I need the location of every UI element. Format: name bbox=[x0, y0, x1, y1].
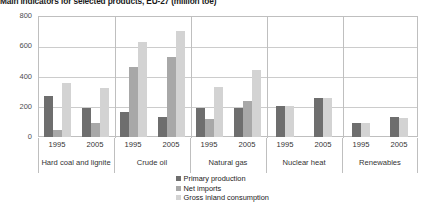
y-axis-tick-label: 600 bbox=[0, 41, 32, 50]
category-separator bbox=[115, 17, 116, 138]
year-label: 1995 bbox=[37, 140, 77, 149]
legend-label: Gross inland consumption bbox=[184, 193, 269, 202]
y-axis-tick-label: 400 bbox=[0, 72, 32, 81]
year-row-separator bbox=[38, 138, 39, 155]
category-row-separator bbox=[114, 155, 115, 173]
year-label: 1995 bbox=[113, 140, 153, 149]
y-axis-tick-label: 800 bbox=[0, 11, 32, 20]
year-label: 2005 bbox=[75, 140, 115, 149]
gridline bbox=[39, 47, 417, 48]
legend-item[interactable]: Net imports bbox=[176, 184, 269, 193]
year-label: 1995 bbox=[265, 140, 305, 149]
category-label: Renewables bbox=[330, 158, 430, 167]
gridline bbox=[39, 107, 417, 108]
year-label: 2005 bbox=[227, 140, 267, 149]
chart-container: Main indicators for selected products, E… bbox=[0, 0, 430, 205]
category-row-separator bbox=[417, 155, 418, 173]
year-row-separator bbox=[342, 138, 343, 155]
year-row-separator bbox=[190, 138, 191, 155]
legend-item[interactable]: Primary production bbox=[176, 174, 269, 183]
chart-title: Main indicators for selected products, E… bbox=[0, 0, 430, 6]
legend-label: Primary production bbox=[184, 174, 246, 183]
category-row-separator bbox=[190, 155, 191, 173]
category-separator bbox=[267, 17, 268, 138]
legend-swatch-icon bbox=[176, 186, 181, 191]
year-axis: 1995200519952005199520051995200519952005 bbox=[38, 138, 418, 155]
chart-legend: Primary productionNet importsGross inlan… bbox=[176, 174, 269, 203]
year-row-separator bbox=[417, 138, 418, 155]
category-separator bbox=[191, 17, 192, 138]
gridline bbox=[39, 77, 417, 78]
legend-swatch-icon bbox=[176, 195, 181, 200]
category-row-separator bbox=[38, 155, 39, 173]
category-axis: Hard coal and ligniteCrude oilNatural ga… bbox=[38, 155, 418, 173]
category-separator bbox=[343, 17, 344, 138]
year-row-separator bbox=[114, 138, 115, 155]
year-row-separator bbox=[266, 138, 267, 155]
year-label: 2005 bbox=[151, 140, 191, 149]
year-label: 2005 bbox=[379, 140, 419, 149]
legend-swatch-icon bbox=[176, 176, 181, 181]
plot-area bbox=[38, 16, 418, 137]
legend-label: Net imports bbox=[184, 184, 222, 193]
legend-item[interactable]: Gross inland consumption bbox=[176, 193, 269, 202]
y-axis-tick-label: 0 bbox=[0, 132, 32, 141]
category-row-separator bbox=[266, 155, 267, 173]
year-label: 1995 bbox=[189, 140, 229, 149]
year-label: 1995 bbox=[341, 140, 381, 149]
year-label: 2005 bbox=[303, 140, 343, 149]
category-row-separator bbox=[342, 155, 343, 173]
y-axis-tick-label: 200 bbox=[0, 102, 32, 111]
